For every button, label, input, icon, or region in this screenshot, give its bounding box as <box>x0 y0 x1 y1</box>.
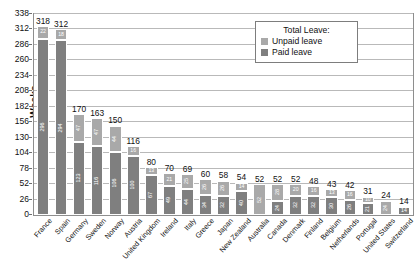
bar-column: 322052 <box>289 184 302 215</box>
bar-column: 301343 <box>325 189 338 215</box>
bar-value-unpaid: 13 <box>148 169 154 174</box>
bar-total-label: 80 <box>147 158 156 166</box>
legend-item-unpaid-leave: Unpaid leave <box>261 36 352 47</box>
bar-segment-paid: 296 <box>37 39 50 215</box>
bar-total-label: 14 <box>399 197 408 205</box>
bar-column: 671380 <box>145 167 158 215</box>
bar-value-unpaid: 16 <box>347 192 353 197</box>
bar-total-label: 170 <box>72 105 86 113</box>
bar-total-label: 163 <box>90 109 104 117</box>
bar-value-unpaid: 47 <box>94 129 99 135</box>
bar-column: 442569 <box>181 174 194 215</box>
bar-value-unpaid: 47 <box>76 125 81 131</box>
bar-value-paid: 100 <box>131 181 136 190</box>
x-axis-tick-labels: FranceSpainGermanySwedenNorwayAustriaUni… <box>34 217 413 278</box>
bar-total-label: 70 <box>165 164 174 172</box>
bar-value-paid: 116 <box>94 176 99 185</box>
bar-value-paid: 106 <box>113 179 118 188</box>
bar-value-paid: 40 <box>239 200 244 206</box>
bar-segment-paid: 116 <box>91 146 104 215</box>
bar-segment-paid: 26 <box>344 200 357 215</box>
bar-value-paid: 296 <box>40 122 45 131</box>
y-tick-52: 52 <box>20 179 29 188</box>
bar-value-unpaid: 24 <box>383 205 388 211</box>
y-axis-tick-labels: 0265278104130156182208234260286312338 <box>0 13 31 216</box>
bar-value-paid: 294 <box>58 123 63 132</box>
bar-value-unpaid: 16 <box>311 189 317 194</box>
y-tick-286: 286 <box>15 40 29 49</box>
bar-column: 211031 <box>362 197 375 215</box>
bar-segment-unpaid: 26 <box>199 179 212 194</box>
bar-segment-unpaid: 28 <box>271 184 284 201</box>
bar-column: 342660 <box>199 179 212 215</box>
bar-segment-unpaid: 16 <box>127 146 140 156</box>
bar-column: 261642 <box>344 190 357 215</box>
bar-total-label: 48 <box>309 177 318 185</box>
bar-segment-unpaid: 47 <box>91 118 104 146</box>
bar-value-unpaid: 26 <box>203 184 208 190</box>
bar-value-paid: 21 <box>365 206 370 212</box>
bar-value-unpaid: 52 <box>257 197 262 203</box>
y-tick-208: 208 <box>15 86 29 95</box>
bar-value-unpaid: 28 <box>275 189 280 195</box>
x-label-ireland: Ireland <box>159 217 180 239</box>
bar-value-unpaid: 20 <box>293 187 299 192</box>
bar-segment-unpaid: 20 <box>289 184 302 196</box>
bar-segment-paid: 14 <box>398 207 411 215</box>
x-label-greece: Greece <box>194 217 216 240</box>
bar-column: 29622318 <box>37 26 50 215</box>
bar-segment-paid: 32 <box>307 196 320 215</box>
y-tick-234: 234 <box>15 71 29 80</box>
bar-column: 322658 <box>217 181 230 215</box>
bar-segment-paid: 49 <box>163 186 176 215</box>
bar-total-label: 150 <box>108 116 122 124</box>
bar-column: 1414 <box>398 207 411 215</box>
bar-total-label: 116 <box>127 137 140 145</box>
y-tick-mark <box>29 199 32 200</box>
bar-segment-unpaid: 18 <box>55 29 68 40</box>
legend-swatch-unpaid-leave <box>261 38 268 45</box>
x-label-france: France <box>33 217 54 239</box>
bar-total-label: 31 <box>363 187 372 195</box>
bar-total-label: 43 <box>327 180 336 188</box>
bar-segment-unpaid: 47 <box>73 114 86 142</box>
y-tick-mark <box>29 13 32 14</box>
bar-total-label: 69 <box>183 165 192 173</box>
bar-total-label: 52 <box>291 175 300 183</box>
y-tick-338: 338 <box>15 9 29 18</box>
legend-title: Total Leave: <box>261 25 352 35</box>
bar-segment-paid: 40 <box>235 191 248 215</box>
y-tick-130: 130 <box>15 133 29 142</box>
bar-value-unpaid: 22 <box>40 30 46 35</box>
y-tick-mark <box>29 106 32 107</box>
bar-total-label: 52 <box>273 175 282 183</box>
bar-column: 492170 <box>163 173 176 215</box>
bar-segment-unpaid: 26 <box>217 181 230 196</box>
bar-segment-unpaid: 22 <box>37 26 50 39</box>
y-tick-mark <box>29 137 32 138</box>
bar-value-unpaid: 14 <box>239 184 245 189</box>
bar-segment-paid: 294 <box>55 40 68 215</box>
bar-total-label: 42 <box>345 181 354 189</box>
y-tick-mark <box>29 168 32 169</box>
bar-value-paid: 123 <box>76 174 81 183</box>
y-tick-mark <box>29 75 32 76</box>
bar-column: 401454 <box>235 183 248 215</box>
y-tick-0: 0 <box>24 210 29 219</box>
bar-value-paid: 32 <box>221 202 226 208</box>
bar-total-label: 24 <box>381 191 390 199</box>
bar-value-paid: 26 <box>347 204 352 210</box>
y-tick-312: 312 <box>15 24 29 33</box>
bar-segment-paid: 24 <box>271 201 284 215</box>
y-tick-mark <box>29 214 32 215</box>
bar-column: 10644150 <box>109 126 122 215</box>
bar-segment-unpaid: 52 <box>253 184 266 215</box>
bar-value-unpaid: 25 <box>185 178 190 184</box>
bar-total-label: 312 <box>54 20 68 28</box>
y-tick-104: 104 <box>15 148 29 157</box>
bar-value-paid: 44 <box>185 199 190 205</box>
bar-value-paid: 14 <box>401 208 407 213</box>
bar-column: 12347170 <box>73 114 86 215</box>
bar-segment-unpaid: 10 <box>362 197 375 203</box>
bar-value-paid: 30 <box>329 203 334 209</box>
